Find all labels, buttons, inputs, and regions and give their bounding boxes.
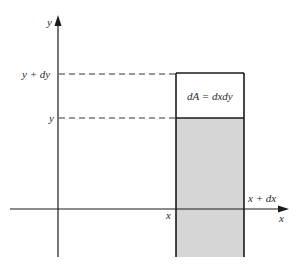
tick-label-y: y (48, 112, 54, 124)
x-axis-label: x (278, 212, 284, 224)
tick-label-x-plus-dx: x + dx (247, 192, 276, 204)
tick-label-x: x (165, 209, 171, 221)
area-element-diagram: y x y + dy y x x + dx dA = dxdy (0, 0, 298, 271)
element-label: dA = dxdy (187, 90, 233, 102)
y-axis-label: y (46, 16, 52, 28)
y-axis-arrow-icon (55, 15, 62, 26)
shaded-strip (176, 118, 244, 257)
tick-label-y-plus-dy: y + dy (21, 68, 50, 80)
